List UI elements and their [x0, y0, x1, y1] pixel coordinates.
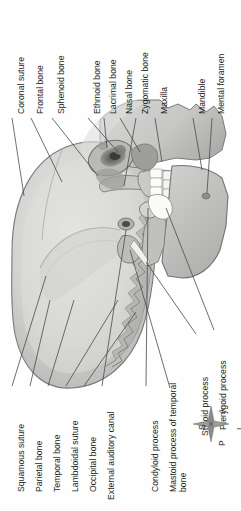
compass-label-anterior: A: [217, 408, 227, 414]
external-auditory-canal-opening: [122, 221, 130, 227]
compass-label-superior: S: [197, 424, 207, 430]
ethmoid-bone-shape: [114, 145, 126, 155]
label-lacrimal-bone: Lacrimal bone: [108, 59, 118, 114]
compass-label-inferior: I: [235, 428, 241, 430]
label-temporal-bone: Temporal bone: [52, 435, 62, 493]
orientation-compass: A P S I: [185, 398, 237, 450]
label-lambdoidal-suture: Lambdoidal suture: [70, 420, 80, 492]
label-sphenoid-bone: Sphenoid bone: [56, 56, 66, 114]
label-frontal-bone: Frontal bone: [35, 65, 45, 114]
label-ethmoid-bone: Ethmoid bone: [92, 60, 102, 114]
label-zygomatic-bone: Zygomatic bone: [140, 52, 150, 114]
label-mental-foramen: Mental foramen: [216, 54, 226, 114]
compass-label-posterior: P: [217, 440, 227, 446]
label-nasal-bone: Nasal bone: [124, 70, 134, 114]
label-mandible: Mandible: [197, 79, 207, 114]
skull-anatomy-figure: Coronal suture Frontal bone Sphenoid bon…: [0, 0, 241, 511]
label-external-auditory-canal: External auditory canal: [106, 411, 116, 500]
label-coronal-suture: Coronal suture: [16, 57, 26, 114]
mandible-shape: [162, 166, 228, 279]
label-maxilla: Maxilla: [159, 87, 169, 114]
compass-star-icon: [185, 398, 237, 450]
label-condyloid-process: Condyloid process: [150, 420, 160, 492]
label-squamous-suture: Squamous suture: [16, 424, 26, 492]
lacrimal-bone-shape: [98, 142, 108, 150]
label-occipital-bone: Occipital bone: [88, 437, 98, 492]
label-parietal-bone: Parietal bone: [34, 441, 44, 492]
mental-foramen-shape: [202, 193, 210, 199]
